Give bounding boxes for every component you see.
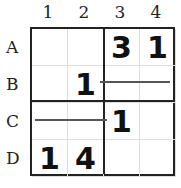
puzzle-grid: 3 1 1 1 1 4 (30, 27, 175, 176)
cell-a4[interactable]: 1 (140, 29, 176, 66)
cell-c2[interactable] (68, 103, 104, 140)
column-label-2: 2 (66, 2, 102, 22)
row-label-b: B (6, 66, 26, 103)
row-label-c: C (6, 103, 26, 140)
cell-d2[interactable]: 4 (68, 140, 104, 177)
row-label-d: D (6, 140, 26, 177)
cell-d3[interactable] (104, 140, 140, 177)
cell-c1[interactable] (32, 103, 68, 140)
cell-b1[interactable] (32, 66, 68, 103)
row-label-a: A (6, 29, 26, 66)
connector-line-row-c (35, 119, 107, 121)
cell-a1[interactable] (32, 29, 68, 66)
connector-line-row-b (100, 81, 170, 83)
cell-d1[interactable]: 1 (32, 140, 68, 177)
cell-b4[interactable] (140, 66, 176, 103)
cell-b2[interactable]: 1 (68, 66, 104, 103)
column-label-3: 3 (102, 2, 138, 22)
cell-d4[interactable] (140, 140, 176, 177)
cell-c3[interactable]: 1 (104, 103, 140, 140)
cell-c4[interactable] (140, 103, 176, 140)
cell-b3[interactable] (104, 66, 140, 103)
column-label-4: 4 (138, 2, 174, 22)
cell-a3[interactable]: 3 (104, 29, 140, 66)
region-divider-horizontal (32, 100, 173, 102)
cell-a2[interactable] (68, 29, 104, 66)
column-label-1: 1 (30, 2, 66, 22)
